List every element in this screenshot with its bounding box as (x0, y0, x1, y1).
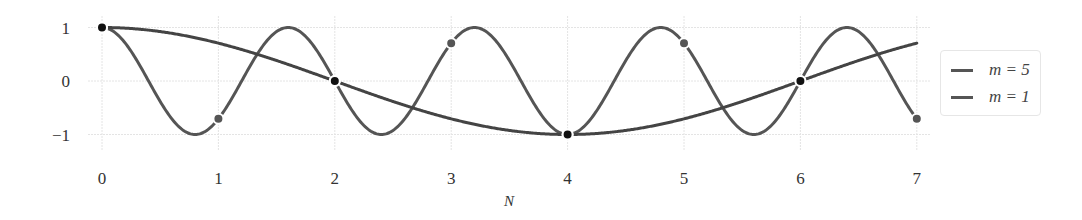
data-point-marker (795, 76, 805, 86)
x-axis-ticks: 01234567 (98, 169, 922, 188)
y-tick-label: 0 (62, 72, 71, 91)
legend-swatch-m5 (951, 69, 973, 72)
legend-label: m = 1 (989, 87, 1030, 107)
data-point-marker (330, 76, 340, 86)
x-tick-label: 2 (331, 169, 340, 188)
x-tick-label: 5 (680, 169, 689, 188)
y-axis-ticks: 10−1 (52, 19, 70, 145)
chart-plot: 10−1 01234567 N (0, 0, 1082, 220)
x-tick-label: 0 (98, 169, 107, 188)
x-tick-label: 4 (563, 169, 572, 188)
data-point-marker (213, 114, 223, 124)
legend-item-m1: m = 1 (951, 87, 1030, 107)
x-tick-label: 1 (214, 169, 223, 188)
legend-item-m5: m = 5 (951, 60, 1030, 80)
data-point-marker (563, 130, 573, 140)
legend-swatch-m1 (951, 96, 973, 99)
x-tick-label: 3 (447, 169, 456, 188)
data-point-marker (446, 38, 456, 48)
legend-label: m = 5 (989, 60, 1030, 80)
y-tick-label: 1 (62, 19, 71, 38)
x-axis-label: N (503, 193, 515, 209)
data-point-marker (679, 38, 689, 48)
x-tick-label: 6 (796, 169, 805, 188)
legend: m = 5 m = 1 (940, 50, 1041, 116)
data-point-marker (97, 23, 107, 33)
x-tick-label: 7 (913, 169, 922, 188)
y-tick-label: −1 (52, 126, 70, 145)
data-point-marker (912, 114, 922, 124)
